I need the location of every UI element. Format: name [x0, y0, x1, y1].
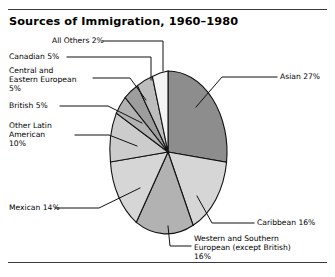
- pie-label-other-latin-american: Other Latin American 10%: [9, 121, 79, 148]
- pie-label-central-eastern-european: Central and Eastern European 5%: [9, 66, 97, 93]
- pie-label-asian: Asian 27%: [280, 72, 320, 81]
- pie-slices: [110, 71, 227, 234]
- figure-root: Sources of Immigration, 1960–1980: [0, 0, 335, 277]
- pie-label-caribbean: Caribbean 16%: [257, 218, 315, 227]
- pie-label-all-others: All Others 2%: [52, 36, 104, 45]
- pie-label-mexican: Mexican 14%: [9, 203, 60, 212]
- pie-slice-asian[interactable]: [168, 71, 227, 162]
- pie-label-british: British 5%: [9, 101, 48, 110]
- bottom-divider-rule: [8, 262, 327, 263]
- leader-line-all-others: [103, 41, 163, 71]
- pie-label-western-southern-european: Western and Southern European (except Br…: [194, 234, 314, 261]
- pie-label-canadian: Canadian 5%: [9, 52, 59, 61]
